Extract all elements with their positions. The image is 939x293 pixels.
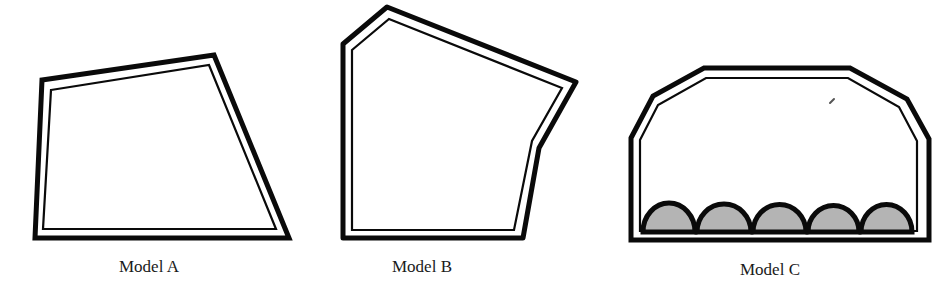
model-a-inner-wall — [43, 65, 276, 229]
model-b-label: Model B — [392, 257, 452, 277]
models-diagram — [0, 0, 939, 293]
model-b-shape — [343, 7, 576, 238]
model-c-bumps — [641, 203, 914, 232]
model-a-shape — [35, 55, 289, 238]
model-c-label: Model C — [740, 260, 800, 280]
model-a-label: Model A — [119, 257, 179, 277]
model-c-shape — [631, 68, 929, 240]
